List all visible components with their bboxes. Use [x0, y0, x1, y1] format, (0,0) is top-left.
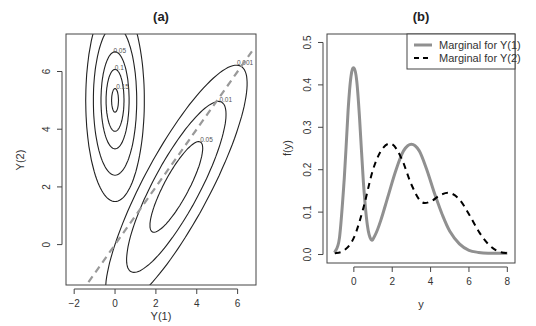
- panel-b: (b) 02468 0.00.10.20.30.40.5 y f(y) Marg…: [281, 9, 521, 310]
- contour-level-label: 0.001: [110, 0, 127, 4]
- x-tick-label: 2: [389, 276, 395, 287]
- panel-b-title: (b): [413, 9, 430, 24]
- panel-a-x-label: Y(1): [151, 310, 172, 322]
- panel-a-y-axis: 0246: [41, 68, 62, 247]
- panel-b-y-axis: 0.00.10.20.30.40.5: [302, 35, 323, 261]
- x-tick-label: −2: [68, 298, 80, 309]
- x-tick-label: 4: [428, 276, 434, 287]
- panel-a-title: (a): [153, 9, 169, 24]
- x-tick-label: 4: [194, 298, 200, 309]
- y-tick-label: 0: [41, 241, 52, 247]
- x-tick-label: 0: [112, 298, 118, 309]
- y-tick-label: 0.4: [302, 78, 313, 92]
- legend: Marginal for Y(1) Marginal for Y(2): [407, 34, 521, 69]
- contour-level-label: 0.01: [111, 22, 124, 29]
- contour-line: [106, 69, 124, 131]
- y-tick-label: 2: [41, 184, 52, 190]
- contour-level-label: 0.01: [219, 96, 232, 103]
- contour-level-label: 0.001: [237, 59, 254, 66]
- contour-level-label: 0.05: [113, 47, 126, 54]
- contour-line: [86, 0, 145, 202]
- y-tick-label: 6: [41, 68, 52, 74]
- contour-line: [150, 142, 203, 233]
- identity-reference-line: [88, 51, 251, 282]
- x-tick-label: 8: [505, 276, 511, 287]
- panel-b-x-axis: 02468: [351, 267, 510, 287]
- density-lines: [335, 68, 508, 254]
- x-tick-label: 0: [351, 276, 357, 287]
- contour-line: [112, 89, 119, 113]
- panel-a: (a) 0.0010.010.050.10.150.0010.010.05 −2…: [14, 0, 256, 322]
- contour-level-label: 0.05: [200, 136, 213, 143]
- panel-a-x-axis: −20246: [68, 289, 240, 309]
- contour-level-label: 0.15: [116, 83, 129, 90]
- y-tick-label: 0.1: [302, 205, 313, 219]
- x-tick-label: 6: [466, 276, 472, 287]
- panel-b-y-label: f(y): [281, 140, 293, 156]
- panel-b-x-label: y: [418, 298, 424, 310]
- x-tick-label: 2: [153, 298, 159, 309]
- y-tick-label: 4: [41, 126, 52, 132]
- y-tick-label: 0.0: [302, 247, 313, 261]
- y-tick-label: 0.3: [302, 120, 313, 134]
- figure: (a) 0.0010.010.050.10.150.0010.010.05 −2…: [0, 0, 536, 326]
- series-line-y1-solid: [335, 68, 508, 254]
- legend-label-y1: Marginal for Y(1): [439, 39, 521, 51]
- y-tick-label: 0.2: [302, 162, 313, 176]
- legend-label-y2: Marginal for Y(2): [439, 52, 521, 64]
- contour-level-label: 0.1: [115, 64, 124, 71]
- panel-a-y-label: Y(2): [14, 150, 26, 171]
- contour-plot: 0.0010.010.050.10.150.0010.010.05: [86, 0, 254, 309]
- y-tick-label: 0.5: [302, 35, 313, 49]
- x-tick-label: 6: [235, 298, 241, 309]
- contour-line: [127, 101, 226, 272]
